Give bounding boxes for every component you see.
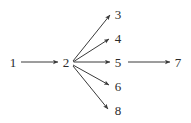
- node-5: 5: [115, 56, 122, 69]
- node-1: 1: [10, 56, 17, 69]
- edges-group: [21, 15, 170, 109]
- edge-2-to-3: [73, 15, 110, 61]
- node-6: 6: [115, 80, 122, 93]
- edge-2-to-6: [73, 65, 109, 85]
- node-7: 7: [175, 56, 182, 69]
- edge-2-to-8: [73, 66, 108, 109]
- edge-layer: [0, 0, 191, 123]
- node-2: 2: [63, 56, 70, 69]
- edge-2-to-4: [73, 39, 109, 62]
- node-8: 8: [115, 104, 122, 117]
- graph-diagram: 12345678: [0, 0, 191, 123]
- node-4: 4: [115, 32, 122, 45]
- node-3: 3: [115, 8, 122, 21]
